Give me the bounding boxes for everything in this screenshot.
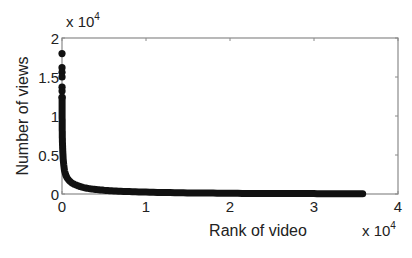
y-tick-label: 0 <box>51 186 59 203</box>
x-tick-label: 2 <box>226 198 234 215</box>
y-tick-label: 1 <box>51 108 59 125</box>
y-axis-ticks: 00.511.52 <box>38 30 398 203</box>
data-point <box>58 50 65 57</box>
data-curve <box>62 97 363 194</box>
y-tick-label: 0.5 <box>38 147 59 164</box>
y-axis-multiplier: x 104 <box>66 11 100 30</box>
y-axis-label: Number of views <box>14 56 31 175</box>
data-point <box>58 87 65 94</box>
plot-frame <box>62 38 398 194</box>
x-tick-label: 1 <box>142 198 150 215</box>
x-axis-multiplier: x 104 <box>362 220 396 239</box>
data-point <box>58 73 65 80</box>
x-tick-label: 4 <box>394 198 402 215</box>
x-axis-label: Rank of video <box>209 222 307 239</box>
plot-area: 01234 00.511.52 <box>38 30 402 215</box>
data-series <box>58 50 362 194</box>
chart: 01234 00.511.52 x 104 x 104 Rank of vide… <box>0 0 412 258</box>
y-tick-label: 1.5 <box>38 69 59 86</box>
x-tick-label: 0 <box>58 198 66 215</box>
data-point <box>58 94 65 101</box>
x-tick-label: 3 <box>310 198 318 215</box>
y-tick-label: 2 <box>51 30 59 47</box>
